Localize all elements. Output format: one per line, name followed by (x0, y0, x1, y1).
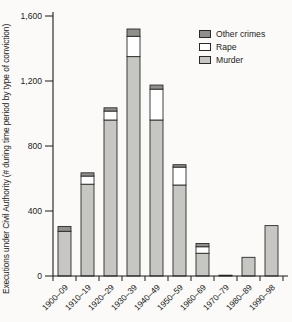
bar-segment-rape-1920–29 (104, 111, 117, 120)
legend-swatch-other-crimes (199, 30, 211, 38)
legend: Other crimes Rape Murder (199, 29, 265, 65)
legend-item-murder: Murder (199, 55, 265, 65)
bar-segment-rape-1930–39 (127, 36, 140, 56)
y-tick-label-0: 0 (37, 271, 42, 281)
legend-label-other-crimes: Other crimes (216, 29, 265, 39)
y-tick-label-1200: 1,200 (20, 76, 42, 86)
execution-bar-chart-figure: Executions under Civil Authority (# duri… (0, 0, 292, 322)
legend-item-rape: Rape (199, 42, 265, 52)
legend-swatch-rape (199, 43, 211, 51)
bar-segment-rape-1940–49 (150, 89, 163, 120)
legend-item-other-crimes: Other crimes (199, 29, 265, 39)
bar-segment-other-crimes-1900–09 (58, 226, 71, 231)
bar-segment-murder-1910–19 (81, 184, 94, 276)
bar-segment-rape-1950–59 (173, 167, 186, 185)
y-tick-label-400: 400 (28, 206, 43, 216)
x-category-label-1990–98: 1990–98 (247, 282, 277, 312)
legend-label-murder: Murder (216, 55, 243, 65)
bar-segment-murder-1930–39 (127, 57, 140, 276)
bar-segment-murder-1950–59 (173, 185, 186, 276)
y-tick-label-1600: 1,600 (20, 11, 42, 21)
bar-segment-rape-1910–19 (81, 176, 94, 184)
bar-segment-other-crimes-1910–19 (81, 173, 94, 176)
bar-segment-murder-1960–69 (196, 253, 209, 276)
bar-segment-murder-1980–89 (242, 257, 255, 276)
bar-segment-murder-1990–98 (265, 226, 278, 276)
bar-segment-murder-1920–29 (104, 120, 117, 276)
bar-segment-murder-1900–09 (58, 231, 71, 276)
bar-segment-murder-1940–49 (150, 120, 163, 276)
bar-segment-other-crimes-1960–69 (196, 244, 209, 247)
bar-segment-other-crimes-1930–39 (127, 29, 140, 36)
bar-segment-other-crimes-1940–49 (150, 85, 163, 89)
y-tick-label-800: 800 (28, 141, 43, 151)
legend-swatch-murder (199, 56, 211, 64)
bar-segment-rape-1960–69 (196, 247, 209, 254)
bar-segment-other-crimes-1920–29 (104, 108, 117, 111)
legend-label-rape: Rape (216, 42, 237, 52)
bar-segment-other-crimes-1950–59 (173, 165, 186, 167)
